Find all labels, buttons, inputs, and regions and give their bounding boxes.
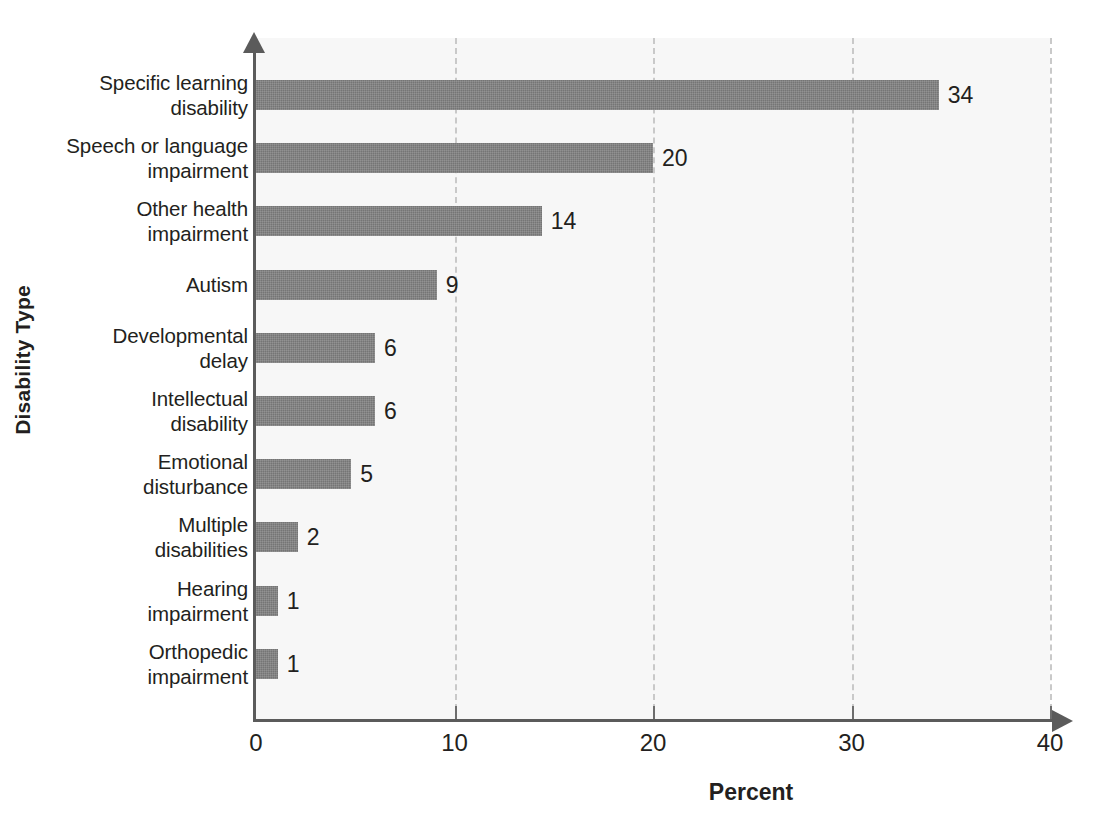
x-tick-label: 40 xyxy=(1037,729,1064,757)
bar[interactable] xyxy=(256,333,375,363)
bar-value-label: 6 xyxy=(384,396,397,426)
category-label-line: impairment xyxy=(48,221,248,246)
bar[interactable] xyxy=(256,522,298,552)
y-axis-arrow-icon xyxy=(243,32,265,53)
category-label: Multipledisabilities xyxy=(48,512,248,562)
bar[interactable] xyxy=(256,270,437,300)
category-label-line: disabilities xyxy=(48,537,248,562)
category-label-line: Speech or language xyxy=(48,133,248,158)
x-tick-30 xyxy=(852,706,854,719)
bar-value-label: 5 xyxy=(360,459,373,489)
bar[interactable] xyxy=(256,586,278,616)
category-label: Emotionaldisturbance xyxy=(48,449,248,499)
bar-value-label: 1 xyxy=(287,649,300,679)
bar[interactable] xyxy=(256,206,542,236)
x-axis-title-text: Percent xyxy=(709,779,793,805)
category-label-line: delay xyxy=(48,348,248,373)
category-label-line: impairment xyxy=(48,158,248,183)
bar-value-label: 2 xyxy=(307,522,320,552)
gridline-20 xyxy=(653,38,655,720)
category-label-line: Specific learning xyxy=(48,70,248,95)
x-tick-label: 30 xyxy=(838,729,865,757)
category-label: Intellectualdisability xyxy=(48,386,248,436)
x-tick-label: 20 xyxy=(640,729,667,757)
x-axis-title: Percent xyxy=(0,779,1107,806)
bar-value-label: 34 xyxy=(948,80,974,110)
category-label: Hearingimpairment xyxy=(48,576,248,626)
bar-chart: Disability Type Specific learningdisabil… xyxy=(0,0,1107,834)
category-label: Other healthimpairment xyxy=(48,196,248,246)
category-label-line: disability xyxy=(48,411,248,436)
gridline-10 xyxy=(455,38,457,720)
bar-value-label: 6 xyxy=(384,333,397,363)
y-axis-title: Disability Type xyxy=(0,0,46,720)
bar-value-label: 9 xyxy=(446,270,459,300)
x-tick-10 xyxy=(455,706,457,719)
category-label: Orthopedicimpairment xyxy=(48,639,248,689)
x-tick-label: 10 xyxy=(441,729,468,757)
category-label-line: impairment xyxy=(48,601,248,626)
category-label-line: Orthopedic xyxy=(48,639,248,664)
bar[interactable] xyxy=(256,396,375,426)
category-label-line: Hearing xyxy=(48,576,248,601)
bar[interactable] xyxy=(256,80,939,110)
category-label-line: Multiple xyxy=(48,512,248,537)
x-tick-40 xyxy=(1050,706,1052,719)
category-label: Specific learningdisability xyxy=(48,70,248,120)
category-label: Speech or languageimpairment xyxy=(48,133,248,183)
category-label-line: Other health xyxy=(48,196,248,221)
plot-area: 3420149665211 xyxy=(256,38,1050,720)
category-label: Developmentaldelay xyxy=(48,323,248,373)
category-label-line: disturbance xyxy=(48,474,248,499)
y-axis-line xyxy=(253,50,256,722)
category-label-line: impairment xyxy=(48,664,248,689)
category-label-line: disability xyxy=(48,95,248,120)
x-axis-line xyxy=(253,719,1053,722)
x-tick-label: 0 xyxy=(249,729,262,757)
category-label-line: Intellectual xyxy=(48,386,248,411)
bar-value-label: 14 xyxy=(551,206,577,236)
bar-value-label: 1 xyxy=(287,586,300,616)
bar-value-label: 20 xyxy=(662,143,688,173)
bar[interactable] xyxy=(256,459,351,489)
bar[interactable] xyxy=(256,649,278,679)
category-label-line: Autism xyxy=(48,272,248,297)
category-label-line: Developmental xyxy=(48,323,248,348)
category-label-line: Emotional xyxy=(48,449,248,474)
x-tick-20 xyxy=(653,706,655,719)
y-axis-category-labels: Specific learningdisabilitySpeech or lan… xyxy=(48,38,248,720)
bar[interactable] xyxy=(256,143,653,173)
y-axis-title-text: Disability Type xyxy=(11,285,35,435)
category-label: Autism xyxy=(48,272,248,297)
gridline-40 xyxy=(1050,38,1052,720)
gridline-30 xyxy=(852,38,854,720)
